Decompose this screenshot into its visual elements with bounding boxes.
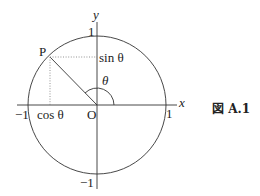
sin-theta-label: sin θ	[99, 51, 124, 64]
radius-op	[50, 57, 97, 105]
y-pos-one-label: 1	[88, 25, 95, 38]
x-axis-label: x	[179, 96, 185, 109]
figure-caption: 図 A.1	[212, 99, 250, 116]
x-neg-one-label: −1	[15, 108, 29, 121]
origin-label: O	[87, 108, 96, 121]
cos-theta-label: cos θ	[37, 108, 64, 121]
y-neg-one-label: −1	[80, 176, 94, 189]
unit-circle-diagram	[0, 0, 260, 196]
y-axis-label: y	[93, 8, 99, 21]
x-pos-one-label: 1	[166, 107, 173, 120]
theta-arc	[85, 88, 114, 105]
theta-label: θ	[102, 74, 108, 87]
point-p-label: P	[39, 45, 46, 58]
